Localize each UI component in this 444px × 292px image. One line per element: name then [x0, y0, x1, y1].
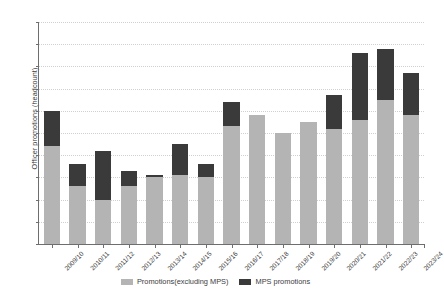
legend-label: MPS promotions	[255, 277, 310, 286]
x-tick-mark	[257, 244, 258, 248]
bar-segment	[95, 151, 111, 200]
bar-2021-22[interactable]	[352, 22, 368, 244]
y-tick-mark	[36, 44, 40, 45]
x-tick-label: 2019/20	[319, 250, 341, 272]
bar-2020-21[interactable]	[326, 22, 342, 244]
x-tick-label: 2020/21	[345, 250, 367, 272]
bar-2013-14[interactable]	[146, 22, 162, 244]
x-tick-label: 2022/23	[396, 250, 418, 272]
x-tick-mark	[232, 244, 233, 248]
bar-segment	[146, 177, 162, 244]
y-tick-mark	[36, 244, 40, 245]
bar-2022-23[interactable]	[377, 22, 393, 244]
x-tick-label: 2016/17	[242, 250, 264, 272]
bar-segment	[44, 146, 60, 244]
bar-2016-17[interactable]	[223, 22, 239, 244]
x-tick-mark	[411, 244, 412, 248]
bar-2018-19[interactable]	[275, 22, 291, 244]
bar-segment	[403, 115, 419, 244]
x-tick-mark	[360, 244, 361, 248]
y-tick-mark	[36, 111, 40, 112]
x-tick-mark	[52, 244, 53, 248]
y-tick-mark	[36, 222, 40, 223]
x-tick-mark	[309, 244, 310, 248]
x-tick-label: 2014/15	[191, 250, 213, 272]
bar-segment	[403, 73, 419, 115]
x-tick-label: 2015/16	[217, 250, 239, 272]
y-tick-mark	[36, 155, 40, 156]
bar-segment	[198, 177, 214, 244]
bar-segment	[352, 120, 368, 244]
x-tick-mark	[386, 244, 387, 248]
bar-segment	[223, 126, 239, 244]
bar-2014-15[interactable]	[172, 22, 188, 244]
bar-segment	[69, 186, 85, 244]
x-tick-mark	[334, 244, 335, 248]
bar-2010-11[interactable]	[69, 22, 85, 244]
bar-segment	[377, 100, 393, 244]
x-tick-label: 2017/18	[268, 250, 290, 272]
bar-segment	[146, 175, 162, 177]
bar-2012-13[interactable]	[121, 22, 137, 244]
y-tick-mark	[36, 200, 40, 201]
x-tick-label: 2012/13	[140, 250, 162, 272]
bar-2023-24[interactable]	[403, 22, 419, 244]
plot-area: 05001,0001,5002,0002,5003,0003,5004,0004…	[38, 22, 424, 245]
y-tick-mark	[36, 133, 40, 134]
bar-segment	[300, 122, 316, 244]
x-tick-label: 2011/12	[114, 250, 135, 271]
bar-segment	[377, 49, 393, 100]
bar-segment	[249, 115, 265, 244]
bar-segment	[326, 95, 342, 128]
legend-item-0[interactable]: Promotions(excluding MPS)	[121, 277, 229, 286]
bar-segment	[69, 164, 85, 186]
bar-segment	[95, 200, 111, 244]
x-tick-label: 2021/22	[371, 250, 393, 272]
x-tick-mark	[78, 244, 79, 248]
bar-segment	[172, 144, 188, 175]
bar-segment	[172, 175, 188, 244]
x-tick-mark	[206, 244, 207, 248]
x-tick-mark	[129, 244, 130, 248]
bar-segment	[223, 102, 239, 126]
bar-segment	[326, 129, 342, 244]
bar-2011-12[interactable]	[95, 22, 111, 244]
legend-swatch-icon	[121, 279, 133, 285]
x-tick-mark	[155, 244, 156, 248]
x-tick-mark	[283, 244, 284, 248]
legend-item-1[interactable]: MPS promotions	[239, 277, 310, 286]
chart-legend: Promotions(excluding MPS)MPS promotions	[0, 277, 431, 286]
x-tick-mark	[103, 244, 104, 248]
bar-segment	[352, 53, 368, 120]
legend-swatch-icon	[239, 279, 251, 285]
y-tick-mark	[36, 66, 40, 67]
y-tick-mark	[36, 22, 40, 23]
legend-label: Promotions(excluding MPS)	[137, 277, 229, 286]
bar-segment	[198, 164, 214, 177]
x-tick-mark	[424, 244, 425, 248]
bar-2015-16[interactable]	[198, 22, 214, 244]
x-tick-mark	[180, 244, 181, 248]
bar-segment	[275, 133, 291, 244]
x-tick-label: 2010/11	[88, 250, 109, 271]
x-tick-label: 2023/24	[422, 250, 444, 272]
y-tick-mark	[36, 177, 40, 178]
bar-2017-18[interactable]	[249, 22, 265, 244]
bar-2019-20[interactable]	[300, 22, 316, 244]
bar-2009-10[interactable]	[44, 22, 60, 244]
bar-segment	[121, 171, 137, 187]
bar-segment	[121, 186, 137, 244]
x-tick-label: 2018/19	[294, 250, 316, 272]
x-tick-label: 2013/14	[165, 250, 187, 272]
x-tick-label: 2009/10	[63, 250, 85, 272]
y-tick-mark	[36, 89, 40, 90]
bar-segment	[44, 111, 60, 147]
